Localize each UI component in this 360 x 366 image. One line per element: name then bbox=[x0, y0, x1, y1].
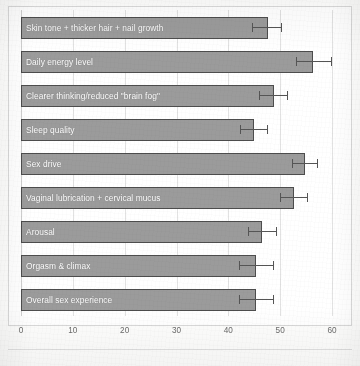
bar bbox=[21, 221, 262, 243]
x-tick-label-40: 40 bbox=[224, 326, 233, 335]
x-tick-label-50: 50 bbox=[276, 326, 285, 335]
error-bar-line bbox=[292, 163, 318, 164]
x-tick-label-10: 10 bbox=[68, 326, 77, 335]
bar-category-label: Sleep quality bbox=[26, 119, 75, 141]
bar-category-label: Vaginal lubrication + cervical mucus bbox=[26, 187, 161, 209]
bar-category-label: Daily energy level bbox=[26, 51, 93, 73]
error-bar-line bbox=[280, 197, 308, 198]
x-tick-label-20: 20 bbox=[120, 326, 129, 335]
bar-row: Overall sex experience bbox=[21, 289, 332, 311]
error-bar-cap bbox=[239, 295, 240, 304]
bar-category-label: Clearer thinking/reduced "brain fog" bbox=[26, 85, 160, 107]
error-bar-cap bbox=[307, 193, 308, 202]
bar-category-label: Skin tone + thicker hair + nail growth bbox=[26, 17, 163, 39]
error-bar-line bbox=[240, 129, 268, 130]
bar-chart: Skin tone + thicker hair + nail growthDa… bbox=[0, 0, 360, 366]
error-bar-cap bbox=[259, 91, 260, 100]
bottom-rule bbox=[8, 349, 352, 350]
error-bar-cap bbox=[252, 23, 253, 32]
error-bar-cap bbox=[239, 261, 240, 270]
bar-row: Arousal bbox=[21, 221, 332, 243]
bar-row: Daily energy level bbox=[21, 51, 332, 73]
error-bar-line bbox=[296, 61, 332, 62]
x-tick-label-0: 0 bbox=[19, 326, 24, 335]
error-bar-cap bbox=[248, 227, 249, 236]
bar-category-label: Orgasm & climax bbox=[26, 255, 91, 277]
error-bar-cap bbox=[273, 295, 274, 304]
gridline-x-60 bbox=[332, 10, 333, 316]
error-bar-cap bbox=[292, 159, 293, 168]
x-tick-label-30: 30 bbox=[172, 326, 181, 335]
error-bar-cap bbox=[280, 193, 281, 202]
x-tick-label-60: 60 bbox=[327, 326, 336, 335]
error-bar-cap bbox=[331, 57, 332, 66]
error-bar-cap bbox=[267, 125, 268, 134]
bar-category-label: Overall sex experience bbox=[26, 289, 112, 311]
error-bar-cap bbox=[296, 57, 297, 66]
bar-row: Orgasm & climax bbox=[21, 255, 332, 277]
x-axis-tick-labels: 0102030405060 bbox=[0, 326, 360, 344]
plot-area: Skin tone + thicker hair + nail growthDa… bbox=[21, 10, 332, 316]
error-bar-line bbox=[239, 299, 274, 300]
error-bar-cap bbox=[276, 227, 277, 236]
error-bar-line bbox=[259, 95, 288, 96]
bar-category-label: Arousal bbox=[26, 221, 55, 243]
bar-category-label: Sex drive bbox=[26, 153, 61, 175]
bar-row: Vaginal lubrication + cervical mucus bbox=[21, 187, 332, 209]
error-bar-line bbox=[239, 265, 274, 266]
bar-row: Sex drive bbox=[21, 153, 332, 175]
error-bar-cap bbox=[281, 23, 282, 32]
bar bbox=[21, 153, 305, 175]
error-bar-cap bbox=[240, 125, 241, 134]
error-bar-line bbox=[252, 27, 283, 28]
bar-row: Sleep quality bbox=[21, 119, 332, 141]
error-bar-line bbox=[248, 231, 278, 232]
error-bar-cap bbox=[287, 91, 288, 100]
bar-row: Clearer thinking/reduced "brain fog" bbox=[21, 85, 332, 107]
bar-row: Skin tone + thicker hair + nail growth bbox=[21, 17, 332, 39]
error-bar-cap bbox=[317, 159, 318, 168]
error-bar-cap bbox=[273, 261, 274, 270]
